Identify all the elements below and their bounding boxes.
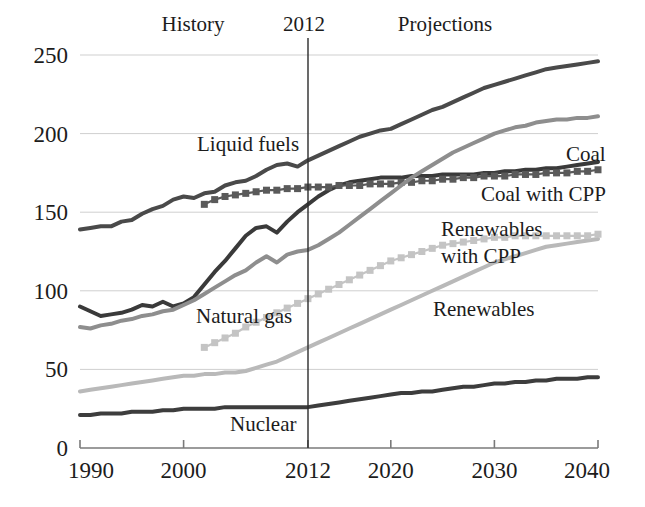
series-coal-with-cpp-marker: [584, 168, 591, 175]
series-renewables-with-cpp-marker: [232, 330, 239, 337]
y-tick-label-250: 250: [34, 43, 69, 68]
series-renewables-with-cpp-marker: [346, 276, 353, 283]
series-coal-with-cpp-marker: [387, 180, 394, 187]
series-renewables-with-cpp-marker: [595, 231, 602, 238]
series-coal-with-cpp-marker: [501, 173, 508, 180]
projections-label: Projections: [398, 12, 493, 36]
series-renewables-with-cpp-marker: [222, 334, 229, 341]
series-coal-with-cpp-marker: [429, 177, 436, 184]
series-coal-with-cpp-marker: [253, 188, 260, 195]
series-coal-with-cpp-marker: [543, 169, 550, 176]
series-coal-with-cpp-marker: [325, 184, 332, 191]
series-coal-with-cpp-marker: [367, 180, 374, 187]
coal-with-cpp-label: Coal with CPP: [481, 182, 606, 206]
series-coal-with-cpp-marker: [346, 182, 353, 189]
x-tick-label-1990: 1990: [68, 458, 114, 483]
series-renewables-with-cpp-marker: [584, 232, 591, 239]
renewables-with-cpp-label-line2: with CPP: [441, 244, 521, 268]
history-label: History: [162, 12, 226, 36]
x-tick-label-2030: 2030: [471, 458, 517, 483]
series-coal-with-cpp-marker: [470, 174, 477, 181]
series-renewables-with-cpp-marker: [418, 248, 425, 255]
series-coal-with-cpp-marker: [315, 184, 322, 191]
series-coal-with-cpp-marker: [491, 173, 498, 180]
series-coal-with-cpp-marker: [222, 193, 229, 200]
y-tick-label-200: 200: [34, 122, 69, 147]
series-renewables-with-cpp-marker: [356, 272, 363, 279]
series-renewables-with-cpp-marker: [574, 232, 581, 239]
series-coal-with-cpp-marker: [522, 171, 529, 178]
series-renewables-with-cpp-marker: [429, 245, 436, 252]
renewables-with-cpp-label-line1: Renewables: [441, 217, 542, 241]
x-tick-label-2012: 2012: [285, 458, 331, 483]
natural-gas-label: Natural gas: [196, 304, 292, 328]
series-renewables-with-cpp-marker: [543, 232, 550, 239]
series-coal-with-cpp-marker: [284, 185, 291, 192]
coal-label: Coal: [566, 142, 606, 166]
renewables-label: Renewables: [433, 297, 534, 321]
series-coal-with-cpp-marker: [532, 171, 539, 178]
series-coal-with-cpp-marker: [377, 180, 384, 187]
line-chart-svg: 050100150200250199020002012202020302040 …: [0, 0, 645, 507]
series-coal-with-cpp-marker: [563, 169, 570, 176]
x-tick-label-2000: 2000: [161, 458, 207, 483]
series-renewables-with-cpp-marker: [398, 254, 405, 261]
series-renewables-with-cpp-marker: [553, 232, 560, 239]
series-coal-with-cpp-marker: [460, 174, 467, 181]
series-coal-with-cpp-marker: [449, 176, 456, 183]
series-coal-with-cpp-marker: [553, 169, 560, 176]
series-renewables-with-cpp-marker: [325, 286, 332, 293]
y-tick-label-150: 150: [34, 200, 69, 225]
series-coal-with-cpp-marker: [336, 182, 343, 189]
axes-group: [80, 38, 598, 448]
series-renewables-with-cpp-marker: [315, 290, 322, 297]
series-renewables-with-cpp-marker: [367, 267, 374, 274]
liquid-fuels-label: Liquid fuels: [197, 132, 299, 156]
y-tick-label-100: 100: [34, 279, 69, 304]
series-coal-with-cpp-marker: [201, 201, 208, 208]
series-renewables-with-cpp-marker: [387, 257, 394, 264]
series-nuclear-line: [80, 377, 598, 415]
gridlines-group: [80, 55, 598, 369]
chart-figure: 050100150200250199020002012202020302040 …: [0, 0, 645, 507]
series-nuclear: [80, 377, 598, 415]
series-coal-with-cpp-marker: [273, 187, 280, 194]
series-coal-with-cpp-marker: [211, 196, 218, 203]
series-coal-with-cpp-marker: [439, 176, 446, 183]
series-coal-with-cpp-marker: [232, 191, 239, 198]
series-renewables-with-cpp-marker: [294, 300, 301, 307]
series-coal-with-cpp-marker: [512, 171, 519, 178]
series-renewables-with-cpp-marker: [211, 339, 218, 346]
series-coal-with-cpp-marker: [294, 185, 301, 192]
annotations-group: History2012Projections: [162, 12, 493, 36]
x-tick-label-2040: 2040: [564, 458, 610, 483]
series-coal-with-cpp-marker: [356, 182, 363, 189]
series-coal-with-cpp-marker: [418, 177, 425, 184]
series-coal-with-cpp-marker: [242, 190, 249, 197]
y-tick-label-0: 0: [57, 436, 69, 461]
y-tick-label-50: 50: [45, 357, 68, 382]
series-coal-with-cpp-marker: [574, 168, 581, 175]
series-coal-with-cpp-marker: [481, 173, 488, 180]
tick-labels-group: 050100150200250199020002012202020302040: [34, 43, 611, 483]
x-tick-label-2020: 2020: [368, 458, 414, 483]
year-divider-label: 2012: [283, 12, 325, 36]
series-renewables-with-cpp-marker: [563, 232, 570, 239]
series-renewables-with-cpp-marker: [201, 344, 208, 351]
nuclear-label: Nuclear: [230, 412, 296, 436]
series-renewables-with-cpp-marker: [408, 251, 415, 258]
series-coal-with-cpp-marker: [595, 166, 602, 173]
series-coal-with-cpp-marker: [263, 187, 270, 194]
series-renewables-with-cpp-marker: [377, 262, 384, 269]
series-renewables-with-cpp-marker: [336, 281, 343, 288]
